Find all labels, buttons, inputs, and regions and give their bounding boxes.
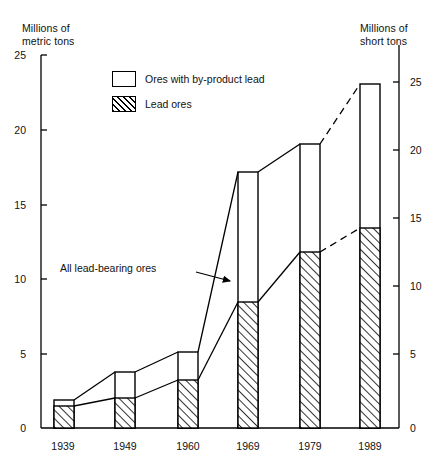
bar-group-1960 (178, 352, 198, 428)
plot-area (0, 0, 439, 469)
annotation-arrow (196, 272, 230, 281)
bar-lead-ores-1979 (300, 252, 320, 428)
right-axis (393, 45, 399, 428)
bar-group-1969 (238, 172, 258, 428)
bar-group-1979 (300, 144, 320, 428)
bar-group-1949 (115, 372, 135, 428)
bar-lead-ores-1960 (178, 380, 198, 428)
bar-lead-ores-1989 (360, 228, 380, 428)
bar-lead-ores-1969 (238, 302, 258, 428)
bar-lead-ores-1939 (54, 406, 74, 428)
bar-lead-ores-1949 (115, 398, 135, 428)
bar-group-1939 (54, 400, 74, 428)
bar-group-1989 (360, 84, 380, 428)
left-axis (41, 55, 47, 428)
chart-figure: Millions of metric tons Millions of shor… (0, 0, 439, 469)
